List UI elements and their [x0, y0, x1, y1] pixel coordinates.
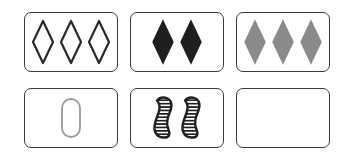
set-card-5[interactable]	[130, 88, 224, 148]
set-card-3[interactable]	[236, 12, 330, 72]
diamond-solid-icon	[243, 19, 267, 65]
squiggle-striped-icon	[179, 96, 203, 140]
set-card-2[interactable]	[130, 12, 224, 72]
diamond-solid-icon	[151, 19, 175, 65]
diamond-open-icon	[87, 19, 111, 65]
diamond-open-icon	[31, 19, 55, 65]
card-row-1	[24, 12, 330, 72]
diamond-open-icon	[59, 19, 83, 65]
diamond-solid-icon	[271, 19, 295, 65]
card-board	[0, 0, 346, 162]
pill-open-icon	[60, 97, 82, 139]
squiggle-striped-icon	[151, 96, 175, 140]
card-row-2	[24, 88, 330, 148]
diamond-solid-icon	[299, 19, 323, 65]
diamond-solid-icon	[179, 19, 203, 65]
set-card-6[interactable]	[236, 88, 330, 148]
set-card-1[interactable]	[24, 12, 118, 72]
set-card-4[interactable]	[24, 88, 118, 148]
